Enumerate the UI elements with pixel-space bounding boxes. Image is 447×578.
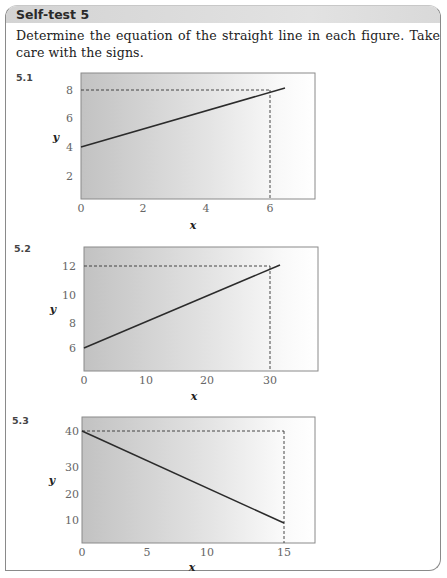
y-tick: 6 <box>69 342 76 355</box>
x-axis-label: x <box>188 561 196 574</box>
y-tick: 20 <box>65 488 79 501</box>
x-tick: 15 <box>277 546 291 559</box>
chart-5-2: 12 10 8 6 0 10 20 30 y x <box>49 247 318 403</box>
x-tick: 20 <box>200 374 214 387</box>
y-tick: 8 <box>69 317 76 330</box>
x-tick: 0 <box>78 202 85 215</box>
x-tick: 6 <box>267 202 274 215</box>
x-tick: 0 <box>79 546 86 559</box>
y-axis-label: y <box>48 474 57 487</box>
x-tick: 5 <box>144 546 151 559</box>
y-axis-label: y <box>49 303 58 316</box>
figures-svg: 8 6 4 2 0 2 4 6 y x 12 10 8 6 0 10 20 30… <box>0 0 447 578</box>
y-axis-label: y <box>52 131 61 144</box>
x-tick: 4 <box>203 202 210 215</box>
x-tick: 30 <box>263 374 277 387</box>
x-tick: 2 <box>140 202 147 215</box>
plot-area <box>82 417 315 543</box>
y-tick: 6 <box>66 112 73 125</box>
y-tick: 2 <box>66 170 73 183</box>
x-axis-label: x <box>190 390 198 403</box>
x-tick: 0 <box>81 374 88 387</box>
y-tick: 40 <box>65 425 79 438</box>
y-tick: 4 <box>66 141 73 154</box>
y-tick: 10 <box>62 289 76 302</box>
x-axis-label: x <box>189 219 197 232</box>
chart-5-1: 8 6 4 2 0 2 4 6 y x <box>52 73 315 232</box>
y-tick: 30 <box>65 461 79 474</box>
x-tick: 10 <box>139 374 153 387</box>
y-tick: 8 <box>66 84 73 97</box>
x-tick: 10 <box>200 546 214 559</box>
y-tick: 10 <box>65 514 79 527</box>
chart-5-3: 40 30 20 10 0 5 10 15 y x <box>48 417 315 574</box>
y-tick: 12 <box>62 260 76 273</box>
plot-area <box>81 73 315 199</box>
